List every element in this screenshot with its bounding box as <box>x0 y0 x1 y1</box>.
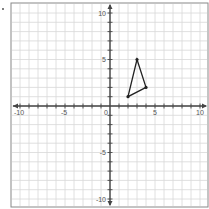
x-tick-label: 10 <box>196 109 204 116</box>
x-tick-label: -10 <box>14 109 24 116</box>
vertex-point <box>135 58 138 61</box>
y-tick-label: -5 <box>100 149 106 156</box>
x-tick-label: 5 <box>153 109 157 116</box>
y-tick-label: -10 <box>96 196 106 203</box>
vertex-point <box>126 95 129 98</box>
y-tick-label: 10 <box>98 10 106 17</box>
coordinate-plane: -10-50510105-5-10 <box>0 0 209 209</box>
y-tick-label: 5 <box>102 56 106 63</box>
x-tick-label: -5 <box>61 109 67 116</box>
x-tick-label: 0 <box>104 109 108 116</box>
vertex-point <box>144 86 147 89</box>
